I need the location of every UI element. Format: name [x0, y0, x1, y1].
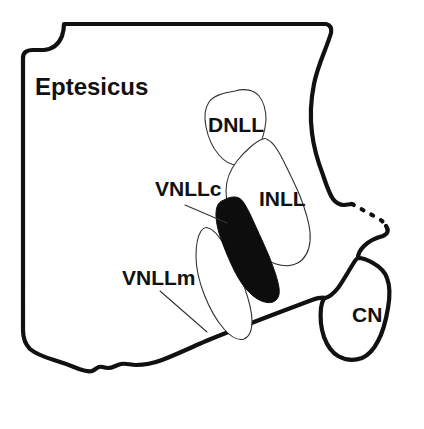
section-outline-lower-right: [358, 226, 388, 258]
vnllc-label: VNLLc: [155, 177, 222, 200]
brainstem-section-diagram: Eptesicus DNLL INLL VNLLc VNLLm CN: [0, 0, 424, 429]
figure-root: Eptesicus DNLL INLL VNLLc VNLLm CN: [0, 0, 424, 429]
species-label: Eptesicus: [35, 73, 148, 100]
inll-label: INLL: [259, 187, 306, 210]
cn-label: CN: [352, 303, 382, 326]
section-outline-dashed-segment: [352, 204, 386, 226]
vnllm-leader-line: [160, 291, 207, 332]
vnllm-label: VNLLm: [122, 266, 196, 289]
dnll-label: DNLL: [208, 113, 264, 136]
